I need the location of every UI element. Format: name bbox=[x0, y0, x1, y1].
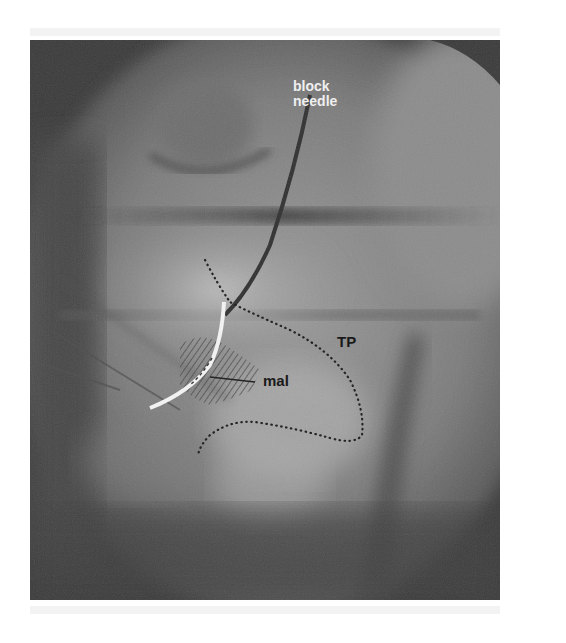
label-block-needle: block needle bbox=[293, 79, 337, 108]
label-block-needle-line2: needle bbox=[293, 94, 337, 109]
xray-figure: block needle TP mal bbox=[30, 40, 500, 600]
xray-image bbox=[30, 40, 500, 600]
label-tp: TP bbox=[337, 334, 356, 350]
scan-artifact-bottom bbox=[30, 606, 500, 614]
label-block-needle-line1: block bbox=[293, 79, 337, 94]
scan-artifact-top bbox=[30, 28, 500, 36]
label-mal: mal bbox=[263, 373, 289, 389]
